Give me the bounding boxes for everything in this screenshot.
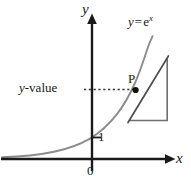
- y-value-label: y-value: [19, 81, 57, 94]
- exponential-curve: [2, 36, 153, 157]
- curve-equation-label: y=ex: [128, 15, 153, 28]
- point-p-label: P: [128, 72, 135, 85]
- y-axis-label: y: [82, 2, 89, 17]
- curve-equation-exponent-x: x: [149, 13, 153, 23]
- x-axis-label: x: [176, 151, 183, 166]
- origin-label: 0: [87, 164, 94, 177]
- x-axis-arrowhead: [165, 154, 176, 164]
- exponential-function-diagram: y x y=ex y-value P 1 0: [0, 0, 191, 186]
- y-axis-tick-label-one: 1: [98, 130, 105, 143]
- curve-equation-variable-y: y: [128, 14, 134, 29]
- point-p-marker: [133, 87, 139, 93]
- y-value-label-suffix: -value: [25, 80, 57, 95]
- curve-equation-equals-sign: =: [134, 14, 143, 29]
